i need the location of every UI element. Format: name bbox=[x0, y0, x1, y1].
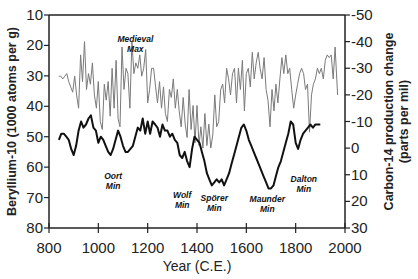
plot-frame bbox=[49, 15, 345, 228]
left-y-axis-title: Beryllium-10 (1000 atoms per g) bbox=[5, 27, 19, 216]
y2-tick-label: -40 bbox=[351, 33, 373, 50]
right-y-axis-title-line1: Carbon-14 production change bbox=[382, 33, 396, 211]
annotation-wolf-min: WolfMin bbox=[173, 190, 192, 210]
series-line-carbon-14-production-change bbox=[59, 42, 338, 149]
x-tick-label: 2000 bbox=[328, 239, 361, 256]
chart-svg: 800100012001400160018002000 102030405060… bbox=[0, 0, 418, 279]
y2-tick-label: 20 bbox=[351, 192, 368, 209]
annotation-sporer-min: SpörerMin bbox=[201, 193, 229, 213]
annotation-oort-min: OortMin bbox=[104, 171, 123, 191]
y2-tick-label: -10 bbox=[351, 113, 373, 130]
series-line-beryllium-10 bbox=[59, 115, 320, 188]
y-tick-label: 80 bbox=[26, 219, 43, 236]
right-y-axis-ticks: -50-40-30-20-100102030 bbox=[345, 6, 373, 236]
left-y-axis-ticks: 1020304050607080 bbox=[26, 6, 49, 236]
y2-tick-label: 0 bbox=[351, 139, 359, 156]
y-tick-label: 20 bbox=[26, 36, 43, 53]
y-tick-label: 10 bbox=[26, 6, 43, 23]
x-axis-title: Year (C.E.) bbox=[163, 258, 232, 274]
annotation-medieval-max: MedievalMax bbox=[117, 34, 154, 54]
y2-tick-label: 10 bbox=[351, 166, 368, 183]
y-tick-label: 40 bbox=[26, 97, 43, 114]
y-tick-label: 30 bbox=[26, 67, 43, 84]
x-tick-label: 1600 bbox=[230, 239, 263, 256]
x-tick-label: 1000 bbox=[82, 239, 115, 256]
x-tick-label: 800 bbox=[36, 239, 61, 256]
x-tick-label: 1800 bbox=[279, 239, 312, 256]
y2-tick-label: -20 bbox=[351, 86, 373, 103]
series-layer bbox=[59, 42, 338, 189]
y-tick-label: 60 bbox=[26, 158, 43, 175]
y-tick-label: 70 bbox=[26, 189, 43, 206]
y2-tick-label: -50 bbox=[351, 6, 373, 23]
annotation-maunder-min: MaunderMin bbox=[250, 194, 286, 214]
x-tick-label: 1400 bbox=[180, 239, 213, 256]
annotation-dalton-min: DaltonMin bbox=[291, 174, 317, 194]
y-tick-label: 50 bbox=[26, 128, 43, 145]
x-tick-label: 1200 bbox=[131, 239, 164, 256]
y2-tick-label: -30 bbox=[351, 59, 373, 76]
y2-tick-label: 30 bbox=[351, 219, 368, 236]
chart-container: 800100012001400160018002000 102030405060… bbox=[0, 0, 418, 279]
right-y-axis-title-line2: (parts per mil) bbox=[397, 80, 411, 163]
